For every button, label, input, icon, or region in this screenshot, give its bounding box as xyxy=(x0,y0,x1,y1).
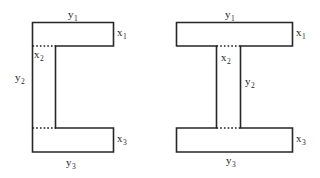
ibeam-web-height-subscript: 2 xyxy=(251,81,255,90)
ibeam-bottom-thickness-symbol: x xyxy=(296,132,302,144)
ibeam-web-height-symbol: y xyxy=(245,75,251,87)
channel-label-web-height: y2 xyxy=(15,72,25,83)
ibeam-section-group xyxy=(177,23,293,153)
channel-label-top-thickness: x1 xyxy=(117,27,127,38)
cross-section-drawing xyxy=(0,0,320,178)
channel-bottom-thickness-symbol: x xyxy=(117,132,123,144)
figure-canvas: y1 x1 x2 y2 x3 y3 y1 x1 x2 y2 x3 y3 xyxy=(0,0,320,178)
channel-section-group xyxy=(33,23,114,153)
channel-web-thickness-subscript: 2 xyxy=(40,54,44,63)
channel-outline xyxy=(33,23,114,153)
ibeam-top-thickness-symbol: x xyxy=(296,26,302,38)
channel-bottom-thickness-subscript: 3 xyxy=(123,138,127,147)
channel-web-height-subscript: 2 xyxy=(21,77,25,86)
ibeam-label-top-width: y1 xyxy=(225,9,235,20)
ibeam-outline xyxy=(177,23,293,153)
channel-label-top-width: y1 xyxy=(68,9,78,20)
channel-web-thickness-symbol: x xyxy=(34,48,40,60)
ibeam-top-width-symbol: y xyxy=(225,8,231,20)
ibeam-top-thickness-subscript: 1 xyxy=(302,32,306,41)
ibeam-label-bottom-width: y3 xyxy=(226,155,236,166)
channel-top-thickness-subscript: 1 xyxy=(123,32,127,41)
ibeam-bottom-thickness-subscript: 3 xyxy=(302,138,306,147)
ibeam-label-top-thickness: x1 xyxy=(296,27,306,38)
ibeam-bottom-width-symbol: y xyxy=(226,154,232,166)
ibeam-bottom-width-subscript: 3 xyxy=(232,160,236,169)
channel-web-height-symbol: y xyxy=(15,71,21,83)
channel-label-web-thickness: x2 xyxy=(34,49,44,60)
ibeam-label-bottom-thickness: x3 xyxy=(296,133,306,144)
channel-top-width-symbol: y xyxy=(68,8,74,20)
ibeam-web-thickness-subscript: 2 xyxy=(227,57,231,66)
channel-label-bottom-width: y3 xyxy=(66,157,76,168)
ibeam-web-thickness-symbol: x xyxy=(221,51,227,63)
channel-top-width-subscript: 1 xyxy=(74,14,78,23)
ibeam-label-web-height: y2 xyxy=(245,76,255,87)
channel-bottom-width-subscript: 3 xyxy=(72,162,76,171)
channel-label-bottom-thickness: x3 xyxy=(117,133,127,144)
ibeam-top-width-subscript: 1 xyxy=(231,14,235,23)
ibeam-label-web-thickness: x2 xyxy=(221,52,231,63)
channel-top-thickness-symbol: x xyxy=(117,26,123,38)
channel-bottom-width-symbol: y xyxy=(66,156,72,168)
